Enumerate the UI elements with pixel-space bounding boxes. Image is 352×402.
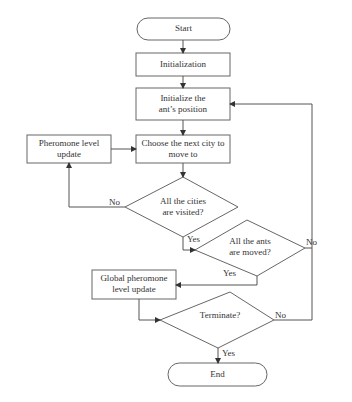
terminate-yes-label: Yes [222, 348, 235, 358]
end-label: End [168, 369, 267, 380]
pheromone-update-label-line1: Pheromone level [27, 138, 111, 149]
global-pheromone-label-line1: Global pheromone [92, 273, 176, 284]
cities-visited-label-line2: are visited? [143, 207, 223, 218]
initialization-label: Initialization [136, 59, 230, 70]
terminate-no-label: No [275, 310, 286, 320]
initialize-position-label-line1: Initialize the [136, 93, 230, 104]
cities-no-label: No [109, 197, 120, 207]
initialize-position-label-line2: ant’s position [136, 104, 230, 115]
choose-next-city-label-line2: move to [136, 149, 230, 160]
ants-moved-label-line1: All the ants [210, 236, 290, 247]
start-label: Start [137, 23, 230, 34]
ants-moved-label-line2: are moved? [210, 247, 290, 258]
cities-yes-label: Yes [187, 234, 200, 244]
ants-no-label: No [306, 237, 317, 247]
cities-visited-label-line1: All the cities [143, 196, 223, 207]
choose-next-city-label-line1: Choose the next city to [136, 138, 230, 149]
ants-yes-label: Yes [223, 268, 236, 278]
global-pheromone-label-line2: level update [92, 284, 176, 295]
terminate-label: Terminate? [180, 310, 260, 321]
pheromone-update-label-line2: update [27, 149, 111, 160]
